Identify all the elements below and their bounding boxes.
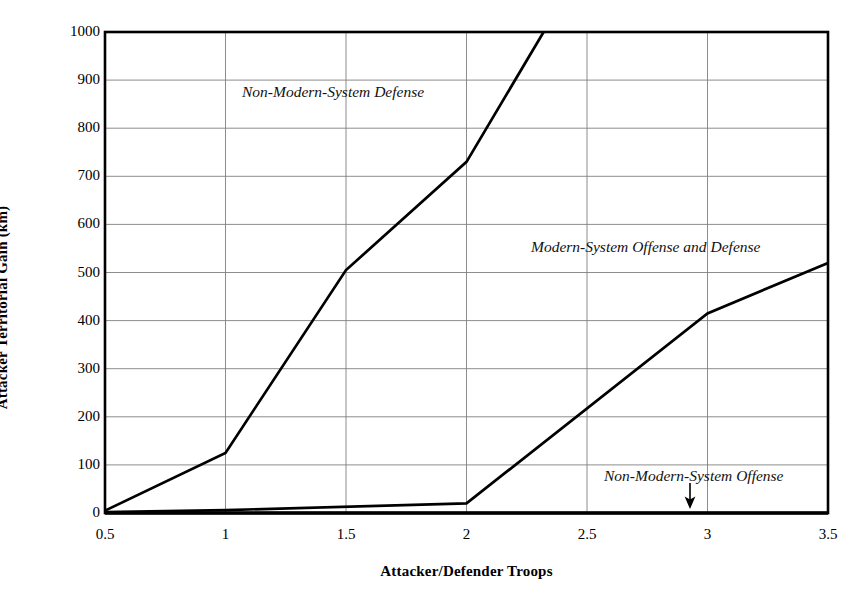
x-axis-tick-label: 1.5 [316, 527, 376, 542]
gridlines [105, 32, 828, 513]
x-axis-title: Attacker/Defender Troops [105, 563, 828, 580]
series-label-modern-system-offense-and-defense: Modern-System Offense and Defense [531, 238, 760, 256]
x-axis-tick-label: 3 [678, 527, 738, 542]
x-axis-tick-labels: 0.511.522.533.5 [0, 527, 863, 549]
x-axis-tick-label: 3.5 [798, 527, 858, 542]
x-axis-tick-label: 0.5 [75, 527, 135, 542]
x-axis-tick-label: 2 [437, 527, 497, 542]
series-label-non-modern-system-offense: Non-Modern-System Offense [604, 467, 784, 485]
series-label-non-modern-system-defense: Non-Modern-System Defense [242, 83, 424, 101]
plot-area [0, 0, 863, 615]
x-axis-tick-label: 1 [196, 527, 256, 542]
down-arrow-icon [685, 483, 696, 509]
chart-figure: Attacker Territorial Gain (km) 010020030… [0, 0, 863, 615]
x-axis-tick-label: 2.5 [557, 527, 617, 542]
